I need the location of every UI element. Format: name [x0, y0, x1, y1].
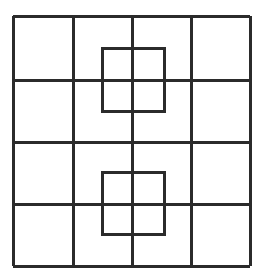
grid-diagram — [0, 0, 263, 280]
figure-container — [0, 0, 263, 280]
